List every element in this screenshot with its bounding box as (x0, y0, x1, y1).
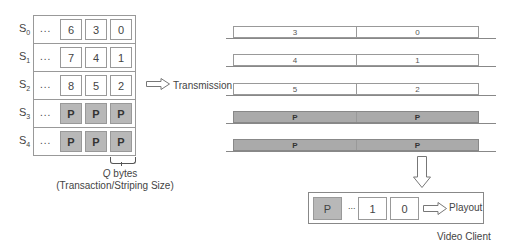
packet-block: 5 (234, 84, 357, 94)
q-bytes-label: Q bytes (90, 168, 150, 179)
server-row-s1: S1 ... 7 4 1 (34, 44, 135, 72)
baseline (226, 151, 496, 152)
baseline (226, 66, 496, 67)
packet-box: 5 2 (233, 83, 479, 95)
server-label: S2 (19, 78, 30, 92)
parity-cell: P (60, 131, 82, 152)
ellipsis: ... (40, 135, 51, 146)
block-cell: 7 (60, 47, 82, 68)
transmission-row-s4: P P (226, 139, 496, 152)
ellipsis: ... (40, 107, 51, 118)
packet-box: 4 1 (233, 54, 479, 66)
server-row-s2: S2 ... 8 5 2 (34, 72, 135, 100)
playout-label: Playout (449, 202, 482, 213)
packet-block: 1 (357, 55, 478, 65)
down-arrow-icon (413, 156, 431, 188)
server-row-s4: S4 ... P P P (34, 128, 135, 156)
parity-cell: P (85, 103, 107, 124)
transmission-row-s2: 5 2 (226, 83, 496, 96)
block-cell: 1 (110, 47, 132, 68)
block-cell: 5 (85, 75, 107, 96)
block-cell: 1 (358, 197, 387, 220)
server-label: S3 (19, 106, 30, 120)
server-label: S0 (19, 22, 30, 36)
baseline (226, 123, 496, 124)
packet-box: 3 0 (233, 26, 479, 38)
ellipsis: ... (40, 23, 51, 34)
server-label: S1 (19, 50, 30, 64)
packet-block: 2 (357, 84, 478, 94)
block-cell: 0 (110, 19, 132, 40)
packet-block: 3 (234, 27, 357, 37)
baseline (226, 95, 496, 96)
block-cell: 6 (60, 19, 82, 40)
parity-cell: P (110, 103, 132, 124)
transmission-row-s0: 3 0 (226, 26, 496, 39)
transmission-row-s1: 4 1 (226, 54, 496, 67)
parity-block: P (234, 140, 357, 150)
parity-packet-box: P P (233, 139, 479, 151)
packet-block: 0 (357, 27, 478, 37)
striping-size-caption: (Transaction/Striping Size) (45, 180, 185, 191)
server-label: S4 (19, 134, 30, 148)
ellipsis: ... (348, 201, 356, 211)
block-cell: 3 (85, 19, 107, 40)
brace-icon (110, 157, 136, 164)
ellipsis: ... (40, 51, 51, 62)
packet-block: 4 (234, 55, 357, 65)
right-arrow-icon (146, 78, 170, 90)
parity-cell: P (110, 131, 132, 152)
brace-tip (121, 162, 122, 166)
parity-block: P (357, 112, 478, 122)
block-cell: 0 (390, 197, 419, 220)
parity-cell: P (313, 197, 342, 220)
video-client-caption: Video Client (437, 231, 491, 242)
parity-packet-box: P P (233, 111, 479, 123)
playout-arrow-icon (423, 202, 447, 215)
parity-block: P (357, 140, 478, 150)
transmission-row-s3: P P (226, 111, 496, 124)
server-row-s3: S3 ... P P P (34, 100, 135, 128)
video-client-buffer: P ... 1 0 Playout (308, 192, 484, 224)
baseline (226, 38, 496, 39)
parity-block: P (234, 112, 357, 122)
block-cell: 2 (110, 75, 132, 96)
block-cell: 4 (85, 47, 107, 68)
parity-cell: P (60, 103, 82, 124)
parity-cell: P (85, 131, 107, 152)
transmission-label: Transmission (173, 80, 232, 91)
ellipsis: ... (40, 79, 51, 90)
server-stripe-grid: S0 ... 6 3 0 S1 ... 7 4 1 S2 ... 8 5 2 S… (33, 15, 136, 156)
block-cell: 8 (60, 75, 82, 96)
server-row-s0: S0 ... 6 3 0 (34, 16, 135, 44)
